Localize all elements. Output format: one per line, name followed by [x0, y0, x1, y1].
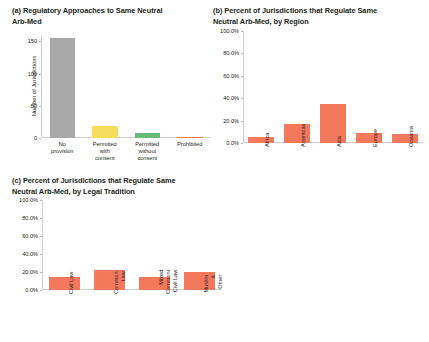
y-tick-mark	[241, 76, 243, 77]
x-tick-label: Africa	[264, 133, 271, 147]
y-tick-mark	[40, 254, 42, 255]
y-tick-label: 0.0%	[226, 140, 239, 146]
panel-c-plot-area: 0.0%20.0%40.0%60.0%80.0%100.0%Civil LawC…	[42, 200, 222, 290]
x-tick-label: Mixed Common/ Civil Law	[158, 270, 179, 294]
bar	[92, 126, 118, 138]
y-tick-label: 100.0%	[19, 197, 38, 203]
bar	[49, 277, 81, 290]
y-tick-mark	[39, 74, 41, 75]
y-tick-label: 60.0%	[223, 73, 239, 79]
y-tick-label: 100.0%	[220, 28, 239, 34]
y-axis-line	[42, 200, 43, 290]
x-tick-label: Europe	[372, 129, 379, 147]
bar	[50, 38, 76, 138]
y-tick-mark	[39, 138, 41, 139]
y-tick-mark	[241, 121, 243, 122]
y-tick-mark	[40, 236, 42, 237]
panel-a-title: (a) Regulatory Approaches to Same Neutra…	[12, 6, 202, 27]
x-tick-label: Oceania	[408, 126, 415, 147]
y-axis-line	[41, 35, 42, 138]
y-tick-mark	[241, 31, 243, 32]
x-tick-label: No provision	[41, 141, 84, 155]
y-tick-label: 20.0%	[22, 269, 38, 275]
y-tick-mark	[241, 143, 243, 144]
y-tick-label: 0	[34, 135, 37, 141]
x-tick-label: Prohibited	[169, 141, 212, 148]
y-tick-label: 40.0%	[223, 95, 239, 101]
x-tick-label: Permitted with consent	[84, 141, 127, 162]
y-tick-mark	[241, 98, 243, 99]
y-tick-label: 80.0%	[223, 50, 239, 56]
panel-c-title: (c) Percent of Jurisdictions that Regula…	[12, 176, 217, 197]
panel-c-percent-by-legal-tradition: (c) Percent of Jurisdictions that Regula…	[12, 176, 226, 342]
bar	[177, 137, 203, 138]
y-tick-label: 150	[28, 38, 37, 44]
y-tick-label: 50	[31, 103, 37, 109]
y-tick-label: 100	[28, 71, 37, 77]
panel-a-plot-area: 050100150No provisionPermitted with cons…	[41, 35, 211, 138]
x-tick-label: Common Law	[113, 271, 127, 294]
panel-a-regulatory-approaches: (a) Regulatory Approaches to Same Neutra…	[12, 6, 212, 166]
y-axis-line	[243, 31, 244, 143]
panel-b-title: (b) Percent of Jurisdictions that Regula…	[213, 6, 418, 27]
y-tick-label: 20.0%	[223, 118, 239, 124]
bar	[135, 133, 161, 138]
y-tick-mark	[39, 106, 41, 107]
y-tick-mark	[40, 218, 42, 219]
y-tick-label: 60.0%	[22, 233, 38, 239]
y-tick-mark	[39, 41, 41, 42]
y-tick-label: 80.0%	[22, 215, 38, 221]
panel-b-percent-by-region: (b) Percent of Jurisdictions that Regula…	[213, 6, 427, 186]
panel-a-y-axis-title: Number of Jurisdictions	[31, 34, 37, 137]
y-tick-label: 0.0%	[25, 287, 38, 293]
y-tick-mark	[40, 290, 42, 291]
panel-b-plot-area: 0.0%20.0%40.0%60.0%80.0%100.0%AfricaAmer…	[243, 31, 423, 143]
x-tick-label: Muslim & Other	[203, 275, 224, 294]
y-tick-mark	[241, 53, 243, 54]
y-tick-mark	[40, 200, 42, 201]
x-tick-label: Asia	[336, 136, 343, 147]
x-tick-label: Civil Law	[68, 272, 75, 294]
x-tick-label: Americas	[300, 124, 307, 147]
x-tick-label: Permitted without consent	[126, 141, 169, 162]
y-tick-label: 40.0%	[22, 251, 38, 257]
y-tick-mark	[40, 272, 42, 273]
